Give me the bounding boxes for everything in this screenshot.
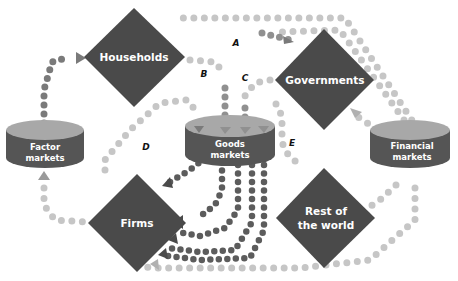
flow-label-c: C <box>242 73 249 83</box>
arrow-fin-to-firms <box>150 259 159 270</box>
goods-markets-label-line1: Goods <box>215 139 245 149</box>
arrow-to-factor <box>38 171 50 180</box>
node-rest-of-world: Rest of the world <box>276 168 375 268</box>
node-households: Households <box>84 8 185 107</box>
flow-label-b: B <box>201 69 208 79</box>
circular-flow-diagram: .dl { fill: none; stroke: #c6c6c6; strok… <box>0 0 458 281</box>
market-factor: Factor markets <box>6 120 84 168</box>
flow-label-e: E <box>289 138 296 148</box>
rest-of-world-label-line2: the world <box>298 219 354 231</box>
factor-markets-label-line1: Factor <box>30 142 61 152</box>
goods-markets-label-line2: markets <box>210 150 249 160</box>
rest-of-world-label-line1: Rest of <box>305 205 347 217</box>
governments-label: Governments <box>285 74 364 86</box>
market-financial: Financial markets <box>370 120 450 168</box>
arrow-goods-to-firms-4 <box>158 248 168 259</box>
node-firms: Firms <box>88 174 186 272</box>
flow-label-d: D <box>142 142 150 152</box>
arrow-goods-to-firms-1 <box>162 177 173 188</box>
market-goods: Goods markets <box>185 115 275 166</box>
factor-markets-label-line2: markets <box>25 153 64 163</box>
arrow-to-households <box>76 52 86 64</box>
financial-markets-label-line2: markets <box>392 152 431 162</box>
flow-label-a: A <box>232 38 240 48</box>
households-label: Households <box>100 51 169 63</box>
financial-markets-label-line1: Financial <box>390 141 433 151</box>
firms-label: Firms <box>120 217 153 229</box>
